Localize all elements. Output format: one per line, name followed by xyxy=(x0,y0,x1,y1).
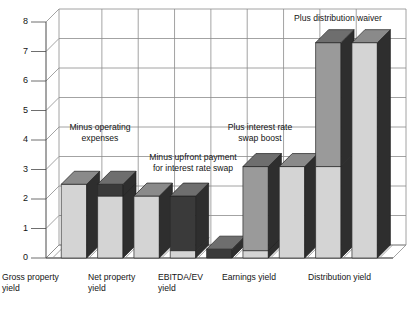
y-tick-label-8: 8 xyxy=(14,17,28,26)
bar-9 xyxy=(352,30,390,258)
bar-segment-front xyxy=(243,167,268,251)
bar-segment-front xyxy=(352,43,377,258)
gridline-depth-connector xyxy=(46,9,59,22)
y-tick-label-7: 7 xyxy=(14,47,28,56)
annot-upfront-payment-line-1: Minus upfront payment xyxy=(130,152,256,163)
y-tick-label-1: 1 xyxy=(14,224,28,233)
x-category-label-4: Earnings yield xyxy=(222,272,294,283)
bar-segment-front xyxy=(98,196,123,258)
annot-operating-expenses-line-2: expenses xyxy=(52,133,148,144)
x-category-label-2: Net property yield xyxy=(88,272,150,293)
gridline-depth-connector xyxy=(46,216,59,229)
bar-segment-front xyxy=(207,249,232,258)
y-tick-label-2: 2 xyxy=(14,194,28,203)
y-tick-label-4: 4 xyxy=(14,135,28,144)
bar-segment-front xyxy=(61,184,86,258)
bar-1 xyxy=(61,171,99,258)
gridline-depth-connector xyxy=(46,68,59,81)
gridline-depth-connector xyxy=(46,39,59,52)
bar-segment-side xyxy=(377,30,390,258)
x-category-label-5: Distribution yield xyxy=(308,272,396,283)
annot-swap-boost: Plus interest rateswap boost xyxy=(211,122,309,143)
annot-swap-boost-line-1: Plus interest rate xyxy=(211,122,309,133)
annot-operating-expenses: Minus operatingexpenses xyxy=(52,122,148,143)
annot-distribution-waiver: Plus distribution waiver xyxy=(268,13,408,24)
gridline-depth-connector xyxy=(46,98,59,111)
annot-swap-boost-line-2: swap boost xyxy=(211,133,309,144)
y-tick-label-0: 0 xyxy=(14,253,28,262)
bar-segment-front xyxy=(134,196,159,258)
bar-segment-front xyxy=(170,251,195,258)
y-tick-label-3: 3 xyxy=(14,165,28,174)
y-tick-label-6: 6 xyxy=(14,76,28,85)
annot-upfront-payment: Minus upfront paymentfor interest rate s… xyxy=(130,152,256,173)
gridline-depth-connector xyxy=(46,186,59,199)
bar-7 xyxy=(279,154,317,258)
bar-segment-front xyxy=(316,43,341,167)
bar-segment-front xyxy=(98,184,123,196)
bar-segment-front xyxy=(279,167,304,258)
bar-segment-front xyxy=(316,167,341,258)
bar-segment-front xyxy=(170,196,195,251)
bar-3 xyxy=(134,183,172,258)
bar-8 xyxy=(316,30,354,258)
bar-2 xyxy=(98,171,136,258)
annot-operating-expenses-line-1: Minus operating xyxy=(52,122,148,133)
x-category-label-1: Gross property yield xyxy=(2,272,72,293)
y-tick-label-5: 5 xyxy=(14,106,28,115)
gridline-depth-connector xyxy=(46,157,59,170)
annot-upfront-payment-line-2: for interest rate swap xyxy=(130,163,256,174)
annot-distribution-waiver-line-1: Plus distribution waiver xyxy=(268,13,408,24)
x-category-label-3: EBITDA/EV yield xyxy=(158,272,218,293)
bar-segment-front xyxy=(243,251,268,258)
bar-chart: 012345678 Gross property yieldNet proper… xyxy=(0,0,415,314)
bar-4 xyxy=(170,183,208,258)
